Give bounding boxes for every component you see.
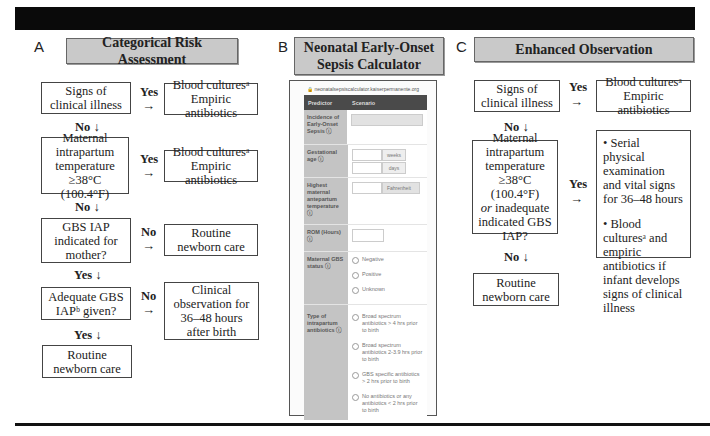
incidence-label: Incidence of Early-Onset Sepsis ⓘ bbox=[304, 110, 347, 144]
a-adequate-box: Adequate GBS IAPᵇ given? bbox=[41, 287, 131, 320]
c-bullet-serial-exam: • Serial physical examination and vital … bbox=[603, 136, 684, 206]
c-bullet-blood-cultures: • Blood culturesᵃ and empiric antibiotic… bbox=[603, 217, 684, 315]
header-predictor: Predictor bbox=[304, 100, 348, 106]
a-gbs-box: GBS IAP indicated for mother? bbox=[41, 218, 131, 263]
a-final-box: Routine newborn care bbox=[42, 345, 132, 378]
arrow-right-icon: → bbox=[142, 302, 155, 318]
temperature-input[interactable] bbox=[352, 182, 382, 194]
gestational-label: Gestational age ⓘ bbox=[304, 145, 348, 177]
c-maternal-or: or bbox=[481, 201, 492, 215]
gbs-unknown-radio[interactable]: Unknown bbox=[352, 286, 423, 294]
row-antibiotics: Type of intrapartum antibiotics ⓘ Broad … bbox=[304, 305, 427, 420]
row-temperature: Highest maternal antepartum temperature … bbox=[304, 178, 427, 225]
a-maternal-box: Maternal intrapartum temperature ≥38°C (… bbox=[41, 137, 129, 194]
arrow-right-icon: → bbox=[570, 191, 583, 207]
rom-label: ROM (Hours) ⓘ bbox=[304, 225, 348, 251]
calculator-url: 🔒 neonatalsepsiscalculator.kaiserpermane… bbox=[290, 86, 436, 94]
c-maternal-no-label: No ↓ bbox=[504, 250, 529, 265]
c-signs-yes-result: Blood culturesᵃ Empiric antibiotics bbox=[596, 80, 691, 112]
arrow-right-icon: → bbox=[570, 94, 583, 110]
a-gbs-yes-label: Yes ↓ bbox=[74, 268, 101, 283]
c-maternal-yes-label: Yes bbox=[569, 177, 587, 192]
antibiotics-label: Type of intrapartum antibiotics ⓘ bbox=[304, 305, 348, 420]
radio-icon bbox=[352, 257, 359, 264]
gbs-negative-radio[interactable]: Negative bbox=[352, 256, 423, 264]
days-input[interactable] bbox=[352, 162, 382, 174]
row-gestational: Gestational age ⓘ weeks days bbox=[304, 145, 427, 178]
arrow-right-icon: → bbox=[142, 238, 155, 254]
panel-c-title: Enhanced Observation bbox=[474, 37, 694, 62]
sepsis-calculator-screenshot: 🔒 neonatalsepsiscalculator.kaiserpermane… bbox=[289, 80, 437, 416]
calculator-header: Predictor Scenario bbox=[304, 95, 427, 110]
panel-a-title: Categorical Risk Assessment bbox=[66, 38, 238, 64]
radio-icon bbox=[352, 272, 359, 279]
arrow-right-icon: → bbox=[142, 165, 155, 181]
radio-icon bbox=[352, 394, 359, 401]
c-maternal-yes-result: • Serial physical examination and vital … bbox=[596, 130, 691, 258]
c-signs-yes-label: Yes bbox=[569, 80, 587, 95]
radio-icon bbox=[352, 314, 359, 321]
rom-input[interactable] bbox=[352, 229, 384, 242]
weeks-unit: weeks bbox=[382, 149, 406, 161]
arrow-right-icon: → bbox=[142, 98, 155, 114]
panel-a-letter: A bbox=[34, 38, 44, 55]
a-signs-box: Signs of clinical illness bbox=[41, 82, 131, 114]
antibiotic-option-2[interactable]: Broad spectrum antibiotics 2-3.9 hrs pri… bbox=[352, 342, 423, 363]
c-final-box: Routine newborn care bbox=[473, 273, 559, 306]
panel-b-title: Neonatal Early-Onset Sepsis Calculator bbox=[294, 37, 444, 75]
row-gbs-status: Maternal GBS status ⓘ Negative Positive … bbox=[304, 252, 427, 305]
temperature-unit-select[interactable]: Fahrenheit bbox=[382, 182, 420, 194]
antibiotic-option-3[interactable]: GBS specific antibiotics > 2 hrs prior t… bbox=[352, 371, 423, 385]
antibiotic-option-1[interactable]: Broad spectrum antibiotics > 4 hrs prior… bbox=[352, 313, 423, 334]
header-scenario: Scenario bbox=[348, 100, 375, 106]
a-adequate-yes-label: Yes ↓ bbox=[74, 328, 101, 343]
radio-icon bbox=[352, 287, 359, 294]
a-signs-yes-result: Blood culturesᵃ Empiric antibiotics bbox=[164, 83, 258, 115]
bottom-rule bbox=[15, 423, 710, 426]
c-maternal-text-a: Maternal intrapartum temperature ≥38°C (… bbox=[477, 131, 553, 201]
calculator-table: Predictor Scenario Incidence of Early-On… bbox=[304, 95, 427, 415]
a-adequate-no-result: Clinical observation for 36–48 hours aft… bbox=[164, 282, 259, 340]
antibiotic-option-4[interactable]: No antibiotics or any antibiotics < 2 hr… bbox=[352, 393, 423, 414]
top-banner bbox=[15, 7, 695, 30]
radio-icon bbox=[352, 372, 359, 379]
c-maternal-box: Maternal intrapartum temperature ≥38°C (… bbox=[472, 140, 558, 234]
days-unit: days bbox=[382, 162, 406, 174]
row-rom: ROM (Hours) ⓘ bbox=[304, 225, 427, 252]
temperature-label: Highest maternal antepartum temperature … bbox=[304, 178, 348, 224]
panel-c-letter: C bbox=[456, 38, 467, 55]
row-incidence: Incidence of Early-Onset Sepsis ⓘ bbox=[304, 110, 427, 145]
incidence-select[interactable] bbox=[351, 114, 423, 126]
radio-icon bbox=[352, 343, 359, 350]
a-gbs-no-result: Routine newborn care bbox=[164, 224, 258, 256]
a-maternal-no-label: No ↓ bbox=[75, 200, 100, 215]
c-signs-box: Signs of clinical illness bbox=[474, 80, 560, 112]
gbs-status-label: Maternal GBS status ⓘ bbox=[304, 252, 348, 304]
weeks-input[interactable] bbox=[352, 149, 382, 161]
gbs-positive-radio[interactable]: Positive bbox=[352, 271, 423, 279]
panel-b-letter: B bbox=[278, 38, 288, 55]
a-maternal-yes-result: Blood culturesᵃ Empiric antibiotics bbox=[164, 150, 258, 182]
